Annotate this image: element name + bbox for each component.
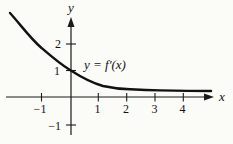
x-tick-label-3: 3	[152, 102, 158, 116]
x-tick-label-neg1: −1	[34, 102, 47, 116]
curve-equation-label: y = f′(x)	[82, 57, 126, 72]
derivative-curve	[10, 13, 211, 91]
x-tick-label-4: 4	[180, 102, 186, 116]
y-axis-arrow-icon	[68, 17, 75, 27]
x-axis-arrow-icon	[204, 93, 214, 100]
x-tick-label-2: 2	[123, 102, 129, 116]
y-tick-label-1: 1	[54, 64, 60, 78]
x-tick-label-1: 1	[95, 102, 101, 116]
derivative-graph-canvas: y x y = f′(x) 2 1 −1 −1 1 2 3 4	[0, 0, 233, 144]
derivative-graph-figure: y x y = f′(x) 2 1 −1 −1 1 2 3 4	[0, 0, 233, 144]
y-axis-label: y	[66, 0, 74, 15]
y-tick-label-2: 2	[55, 37, 61, 51]
y-tick-label-neg1: −1	[48, 119, 61, 133]
x-axis-label: x	[218, 89, 225, 104]
